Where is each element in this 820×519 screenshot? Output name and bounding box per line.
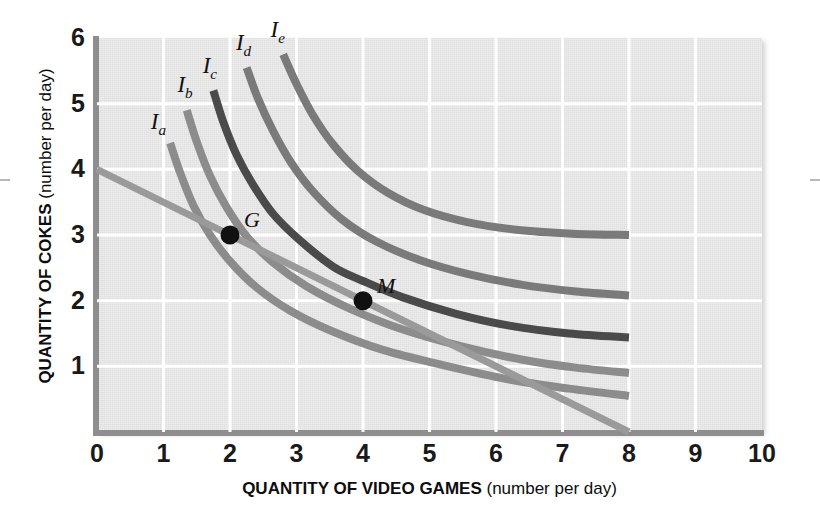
- curve-Ia: [170, 143, 629, 396]
- x-tick-1: 1: [144, 441, 184, 466]
- curve-label-Ib: Ib: [177, 73, 192, 100]
- data-point-M: [354, 291, 373, 310]
- curve-Ie: [283, 54, 629, 235]
- page-edge-mark-left: [0, 179, 10, 181]
- page-edge-mark-right: [810, 179, 820, 181]
- curve-label-base: I: [177, 72, 185, 97]
- curve-label-base: I: [151, 109, 159, 134]
- curve-label-subscript: c: [210, 64, 217, 81]
- y-axis-title-main: QUANTITY OF COKES: [36, 204, 55, 384]
- x-tick-8: 8: [609, 441, 649, 466]
- x-axis-title-unit: (number per day): [486, 479, 616, 498]
- curve-label-subscript: d: [244, 42, 252, 59]
- indifference-curve-figure: 012345678910 123456 IaIbIcIdIe GM QUANTI…: [0, 0, 820, 519]
- y-axis-title: QUANTITY OF COKES (number per day): [36, 68, 55, 383]
- y-axis-title-wrap: QUANTITY OF COKES (number per day): [36, 26, 60, 426]
- x-axis-title: QUANTITY OF VIDEO GAMES (number per day): [97, 479, 762, 499]
- curve-label-subscript: a: [159, 121, 167, 138]
- x-tick-10: 10: [742, 441, 782, 466]
- x-axis-title-main: QUANTITY OF VIDEO GAMES: [242, 479, 482, 498]
- x-tick-2: 2: [210, 441, 250, 466]
- curve-label-base: I: [236, 30, 244, 55]
- y-axis-title-unit: (number per day): [36, 68, 55, 198]
- curve-label-subscript: e: [278, 29, 285, 46]
- data-point-G: [221, 226, 240, 245]
- point-label-G: G: [244, 209, 260, 231]
- curve-label-Id: Id: [236, 31, 251, 58]
- curve-label-Ic: Ic: [203, 54, 217, 81]
- x-tick-3: 3: [277, 441, 317, 466]
- x-tick-4: 4: [343, 441, 383, 466]
- x-tick-0: 0: [77, 441, 117, 466]
- gridlines: [97, 38, 762, 432]
- x-tick-7: 7: [543, 441, 583, 466]
- x-tick-5: 5: [410, 441, 450, 466]
- curve-label-Ie: Ie: [271, 18, 285, 45]
- x-tick-6: 6: [476, 441, 516, 466]
- point-label-M: M: [377, 275, 395, 297]
- x-tick-9: 9: [676, 441, 716, 466]
- curve-label-subscript: b: [185, 84, 193, 101]
- curve-label-Ia: Ia: [151, 110, 166, 137]
